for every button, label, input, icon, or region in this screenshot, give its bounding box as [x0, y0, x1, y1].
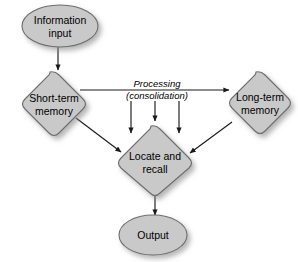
diagram-canvas: Information input Short-term memory Long…	[0, 0, 298, 262]
locate-and-recall-label-line2: recall	[142, 163, 167, 175]
long-term-memory-label-line1: Long-term	[236, 91, 284, 103]
edge-longterm-to-locate	[190, 122, 232, 153]
long-term-memory-label-line2: memory	[241, 104, 280, 116]
short-term-memory-label-line1: Short-term	[29, 92, 79, 104]
edge-shortterm-to-locate	[76, 118, 121, 152]
processing-label-line2: (consolidation)	[126, 90, 188, 101]
locate-and-recall-label-line1: Locate and	[129, 150, 181, 162]
memory-flow-diagram: Information input Short-term memory Long…	[0, 0, 298, 262]
output-label: Output	[137, 229, 169, 241]
information-input-label-line2: input	[49, 27, 72, 39]
processing-label-line1: Processing	[134, 78, 182, 89]
short-term-memory-label-line2: memory	[35, 105, 74, 117]
information-input-label-line1: Information	[34, 14, 87, 26]
connector-layer	[58, 47, 232, 215]
